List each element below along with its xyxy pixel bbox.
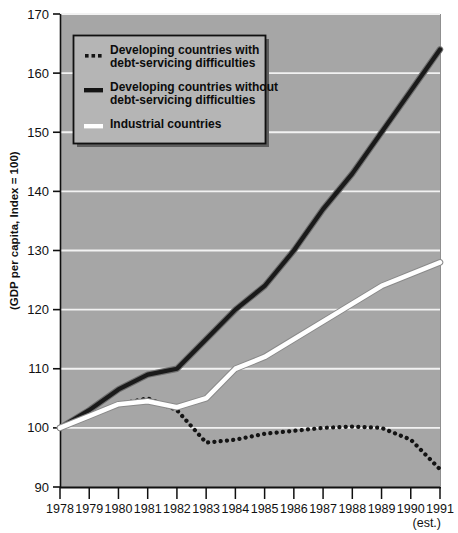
x-tick-label-1980: 1980 [105, 502, 133, 516]
gdp-per-capita-index-chart: 90100110120130140150160170 1978197919801… [0, 0, 458, 533]
x-tick-label-1991: 1991 [426, 502, 454, 516]
y-tick-label-150: 150 [27, 125, 49, 140]
legend-label-2-line2: debt-servicing difficulties [110, 93, 256, 107]
x-tick-label-1978: 1978 [46, 502, 74, 516]
x-tick-label-1981: 1981 [134, 502, 162, 516]
x-axis-estimate-note: (est.) [413, 516, 441, 530]
x-tick-label-1990: 1990 [397, 502, 425, 516]
legend-item-developing-without-debt: Developing countries without debt-servic… [84, 80, 278, 107]
y-tick-label-130: 130 [27, 243, 49, 258]
y-tick-label-160: 160 [27, 66, 49, 81]
dotted-line-swatch-icon [85, 54, 102, 58]
x-tick-label-1983: 1983 [192, 502, 220, 516]
legend: Developing countries with debt-servicing… [74, 36, 279, 148]
y-tick-label-90: 90 [35, 480, 49, 495]
x-tick-label-1982: 1982 [163, 502, 191, 516]
x-tick-label-1989: 1989 [368, 502, 396, 516]
x-tick-label-1979: 1979 [75, 502, 103, 516]
solid-dark-line-swatch-icon [84, 88, 103, 92]
x-tick-label-1988: 1988 [338, 502, 366, 516]
y-tick-label-170: 170 [27, 7, 49, 22]
x-tick-label-1985: 1985 [251, 502, 279, 516]
y-tick-label-110: 110 [28, 361, 49, 376]
legend-label-1-line1: Developing countries with [110, 43, 259, 57]
x-tick-label-1986: 1986 [280, 502, 308, 516]
legend-label-3-line1: Industrial countries [110, 117, 222, 131]
x-tick-label-1984: 1984 [221, 502, 249, 516]
legend-label-2-line1: Developing countries without [110, 80, 278, 94]
y-tick-label-120: 120 [27, 302, 49, 317]
solid-white-line-swatch-icon [84, 124, 103, 128]
chart-canvas: 90100110120130140150160170 1978197919801… [0, 0, 458, 533]
y-tick-label-140: 140 [27, 184, 49, 199]
y-axis-title: (GDP per capita, Index = 100) [8, 151, 20, 310]
legend-item-developing-with-debt: Developing countries with debt-servicing… [85, 43, 259, 70]
x-tick-label-1987: 1987 [309, 502, 337, 516]
y-tick-label-100: 100 [27, 420, 49, 435]
legend-label-1-line2: debt-servicing difficulties [110, 56, 256, 70]
